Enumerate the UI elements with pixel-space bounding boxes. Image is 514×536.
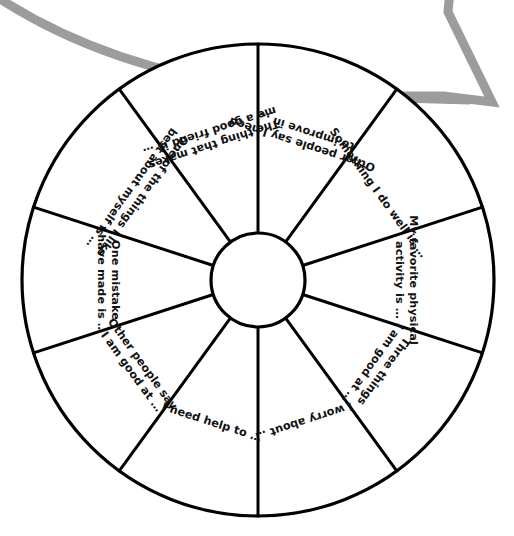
segment-favorite-physical-activity-line-1: My favorite physical bbox=[407, 215, 420, 345]
segment-favorite-physical-activity-line-2: activity is … bbox=[393, 241, 406, 319]
wheel-hub-circle[interactable] bbox=[211, 233, 305, 327]
worksheet-canvas: Other people say I needto improve in …So… bbox=[0, 0, 514, 536]
